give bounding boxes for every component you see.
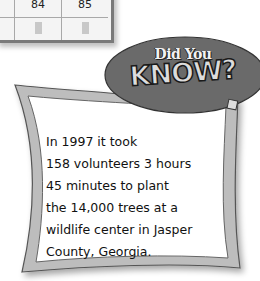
fact-line: 45 minutes to plant [46,175,226,197]
fact-line: 158 volunteers 3 hours [46,153,226,175]
fact-line: wildlife center in Jasper [46,219,226,241]
fact-text: In 1997 it took 158 volunteers 3 hours 4… [46,131,226,263]
fact-line: County, Georgia. [46,241,226,263]
fact-line: the 14,000 trees at a [46,197,226,219]
fact-line: In 1997 it took [46,131,226,153]
